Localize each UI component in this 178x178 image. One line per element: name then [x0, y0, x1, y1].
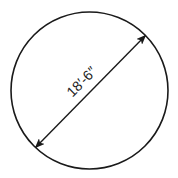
circle-diameter-diagram: 18′-6″	[0, 0, 178, 178]
circle-outline	[11, 12, 168, 169]
diameter-label: 18′-6″	[63, 63, 99, 100]
diameter-arrow	[36, 36, 146, 148]
